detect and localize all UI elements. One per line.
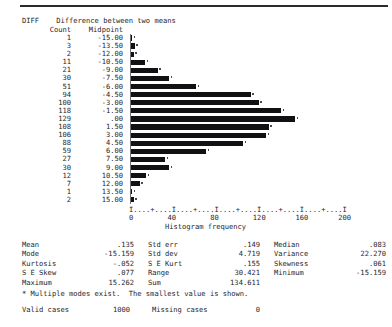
bin-count: 1 xyxy=(22,188,71,196)
bar-end-speck xyxy=(135,52,137,54)
statistics-row: Mean.135Std err.149Median.083 xyxy=(22,240,386,249)
histogram-bar-row xyxy=(131,83,386,91)
bin-count: 1 xyxy=(22,34,71,42)
statistic-label: Std err xyxy=(148,240,206,249)
statistic-label: Range xyxy=(148,268,206,277)
missing-cases-value: 0 xyxy=(224,305,260,314)
histogram-bar-row xyxy=(131,91,386,99)
histogram-bar xyxy=(131,35,132,40)
statistic-label: S E Kurt xyxy=(148,259,206,268)
histogram-bar xyxy=(131,100,259,105)
statistic-label: Median xyxy=(274,240,332,249)
statistic-label: Mode xyxy=(22,249,80,258)
bar-end-speck xyxy=(148,174,150,176)
bar-end-speck xyxy=(167,157,169,159)
bar-end-speck xyxy=(208,149,210,151)
bar-end-speck xyxy=(134,190,136,192)
histogram-bar xyxy=(131,157,165,162)
bin-count: 3 xyxy=(22,42,71,50)
histogram-bar xyxy=(131,43,135,48)
statistic-label: Maximum xyxy=(22,278,80,287)
histogram-bar xyxy=(131,92,251,97)
frequency-table-row: 215.00 xyxy=(22,196,123,204)
histogram-bar xyxy=(131,197,134,202)
histogram-axis-tick-labels: 0 40 80 120 160 200 xyxy=(129,214,351,222)
statistic-label: Skewness xyxy=(274,259,332,268)
statistic-value: 30.421 xyxy=(206,268,260,277)
histogram-plot-area xyxy=(130,34,386,204)
statistic-value: .135 xyxy=(80,240,134,249)
statistics-row: Kurtosis-.052S E Kurt.155Skewness.061 xyxy=(22,259,386,268)
bar-end-speck xyxy=(171,166,173,168)
histogram-bar xyxy=(131,133,266,138)
missing-cases-label: Missing cases xyxy=(152,305,224,314)
histogram-bar xyxy=(131,84,196,89)
statistics-block: Mean.135Std err.149Median.083Mode-15.159… xyxy=(22,240,386,287)
histogram-bar-row xyxy=(131,107,386,115)
histogram-bar xyxy=(131,68,158,73)
valid-cases-label: Valid cases xyxy=(22,305,94,314)
histogram-bar-row xyxy=(131,99,386,107)
histogram-bar-row xyxy=(131,123,386,131)
histogram-bar xyxy=(131,173,146,178)
bar-end-speck xyxy=(147,60,149,62)
histogram-bar-row xyxy=(131,139,386,147)
bar-end-speck xyxy=(260,101,262,103)
histogram-bar xyxy=(131,181,140,186)
histogram-bar-row xyxy=(131,155,386,163)
statistic-value: .083 xyxy=(332,240,386,249)
histogram-bars xyxy=(131,34,386,204)
histogram-bar xyxy=(131,108,281,113)
bar-end-speck xyxy=(252,93,254,95)
statistics-row: S E Skew.077Range30.421Minimum-15.159 xyxy=(22,268,386,277)
histogram-bar-row xyxy=(131,188,386,196)
statistic-label: S E Skew xyxy=(22,268,80,277)
bar-end-speck xyxy=(141,182,143,184)
statistic-label: Kurtosis xyxy=(22,259,80,268)
statistic-label: Minimum xyxy=(274,268,332,277)
bin-count: 12 xyxy=(22,172,71,180)
variable-label: Difference between two means xyxy=(56,16,176,25)
bar-end-speck xyxy=(283,109,285,111)
bar-end-speck xyxy=(171,76,173,78)
valid-cases-value: 1000 xyxy=(94,305,130,314)
histogram-bar-row xyxy=(131,180,386,188)
statistic-value: -15.159 xyxy=(80,249,134,258)
multiple-modes-footnote: * Multiple modes exist. The smallest val… xyxy=(22,289,248,298)
bar-end-speck xyxy=(159,68,161,70)
histogram-bar xyxy=(131,76,169,81)
histogram-bar-row xyxy=(131,164,386,172)
histogram-bar-row xyxy=(131,42,386,50)
bar-end-speck xyxy=(136,44,138,46)
count-column-header: Count xyxy=(22,26,71,34)
statistic-value: .155 xyxy=(206,259,260,268)
bar-end-speck xyxy=(268,133,270,135)
histogram-bar xyxy=(131,141,243,146)
histogram-bar-row xyxy=(131,172,386,180)
statistic-value: -.052 xyxy=(80,259,134,268)
bar-end-speck xyxy=(297,117,299,119)
histogram-bar-row xyxy=(131,115,386,123)
bar-end-speck xyxy=(134,36,136,38)
valid-cases-line: Valid cases1000Missing cases0 xyxy=(22,305,260,314)
variable-name: DIFF xyxy=(22,16,39,25)
histogram-bar-row xyxy=(131,66,386,74)
histogram-bar xyxy=(131,124,269,129)
bin-count: 7 xyxy=(22,180,71,188)
statistics-row: Mode-15.159Std dev4.719Variance22.270 xyxy=(22,249,386,258)
bar-end-speck xyxy=(270,125,272,127)
frequency-table-columns: 1-15.003-13.502-12.0011-10.5021-9.0030-7… xyxy=(22,34,123,204)
histogram-bar-row xyxy=(131,58,386,66)
statistics-row: Maximum15.262Sum134.611 xyxy=(22,278,386,287)
page-top-rule xyxy=(20,5,388,7)
variable-header: DIFF Difference between two means xyxy=(22,17,176,25)
bin-count: 2 xyxy=(22,196,71,204)
histogram-bar xyxy=(131,165,169,170)
histogram-bar xyxy=(131,52,134,57)
histogram-bar-row xyxy=(131,131,386,139)
statistic-value: .149 xyxy=(206,240,260,249)
bar-end-speck xyxy=(245,141,247,143)
statistic-value: 134.611 xyxy=(206,278,260,287)
statistic-value: 4.719 xyxy=(206,249,260,258)
statistic-label: Sum xyxy=(148,278,206,287)
